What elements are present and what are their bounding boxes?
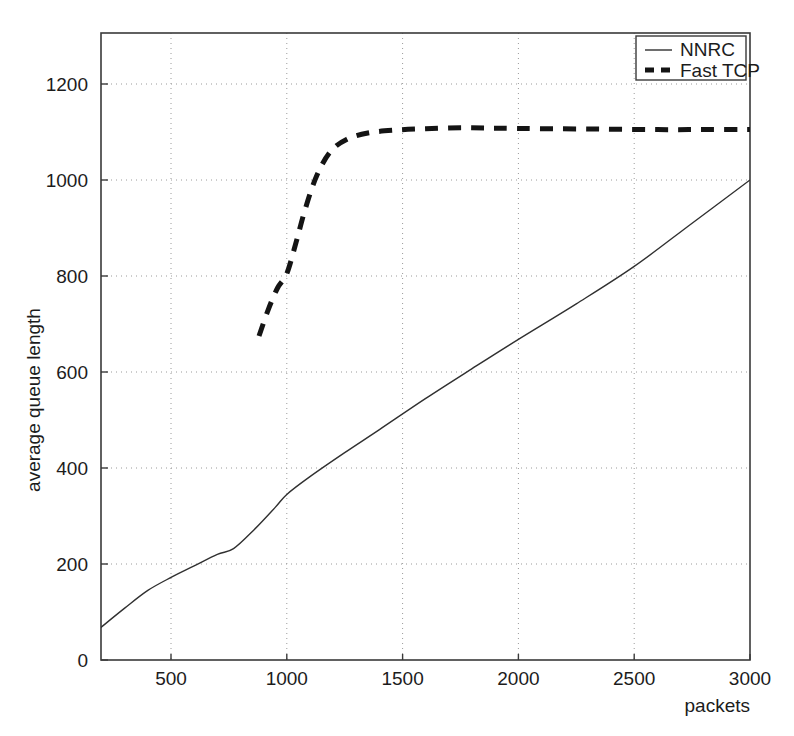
y-tick-label: 0 [77, 650, 88, 671]
x-tick-label: 1000 [266, 668, 308, 689]
x-tick-label: 500 [155, 668, 187, 689]
x-tick-label: 2500 [613, 668, 655, 689]
y-tick-label: 1000 [46, 170, 88, 191]
y-tick-label: 800 [56, 266, 88, 287]
figure-background [0, 0, 794, 736]
x-tick-label: 3000 [729, 668, 771, 689]
queue-length-line-chart: 50010001500200025003000 0200400600800100… [0, 0, 794, 736]
legend-label-nnrc: NNRC [680, 39, 735, 60]
x-tick-label: 2000 [497, 668, 539, 689]
y-tick-label: 1200 [46, 74, 88, 95]
figure-container: 50010001500200025003000 0200400600800100… [0, 0, 794, 736]
y-tick-label: 200 [56, 554, 88, 575]
y-tick-label: 600 [56, 362, 88, 383]
x-axis-title: packets [685, 695, 750, 716]
x-tick-label: 1500 [381, 668, 423, 689]
y-axis-title: average queue length [23, 308, 44, 492]
legend-label-fast-tcp: Fast TCP [680, 60, 760, 81]
y-tick-label: 400 [56, 458, 88, 479]
legend[interactable]: NNRC Fast TCP [636, 36, 760, 81]
